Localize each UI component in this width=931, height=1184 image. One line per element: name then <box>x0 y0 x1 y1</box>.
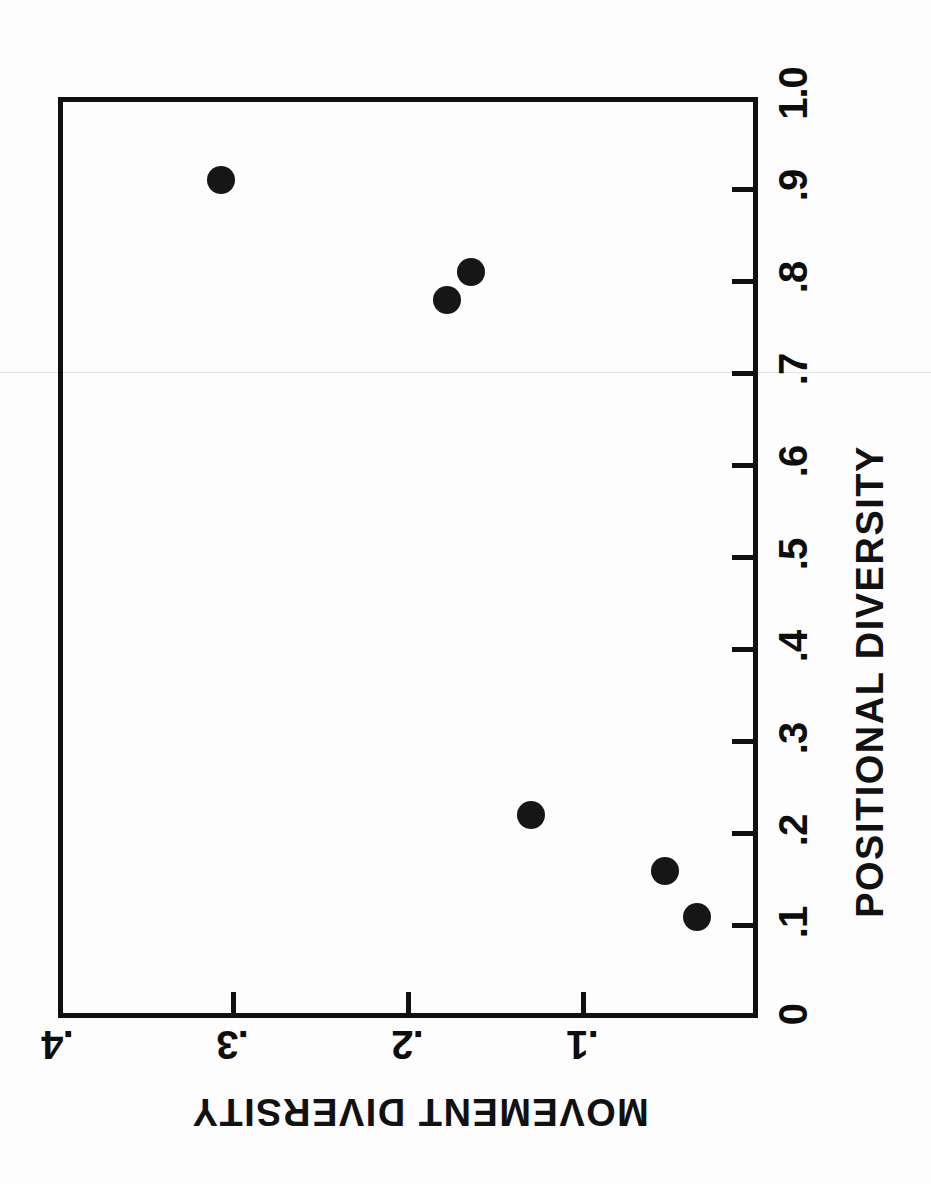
x-axis-tick <box>732 279 758 284</box>
data-point <box>683 903 711 931</box>
x-axis-tick-label: .1 <box>771 895 816 949</box>
y-axis-title: MOVEMENT DIVERSITY <box>160 1090 680 1133</box>
x-axis-tick-label: .6 <box>771 435 816 489</box>
data-point <box>517 801 545 829</box>
y-axis-tick <box>231 992 236 1018</box>
x-axis-tick <box>732 371 758 376</box>
x-axis-tick-label: .8 <box>771 251 816 305</box>
y-axis-tick-label: .4 <box>23 1022 93 1067</box>
data-point <box>207 166 235 194</box>
x-axis-tick-label: .3 <box>771 711 816 765</box>
scatter-plot-figure: POSITIONAL DIVERSITY MOVEMENT DIVERSITY … <box>0 0 931 1184</box>
x-axis-tick-label: 0 <box>771 988 816 1042</box>
x-axis-tick <box>732 831 758 836</box>
x-axis-title: POSITIONAL DIVERSITY <box>849 372 892 992</box>
x-axis-tick <box>732 463 758 468</box>
data-point <box>457 258 485 286</box>
y-axis-tick-label: .1 <box>548 1022 618 1067</box>
y-axis-tick <box>406 992 411 1018</box>
x-axis-tick <box>732 555 758 560</box>
y-axis-tick-label: .3 <box>198 1022 268 1067</box>
x-axis-tick <box>732 923 758 928</box>
data-point <box>651 857 679 885</box>
x-axis-tick-label: 1.0 <box>771 67 816 121</box>
plot-area <box>58 97 758 1018</box>
y-axis-tick-label: .2 <box>373 1022 443 1067</box>
x-axis-tick <box>732 187 758 192</box>
x-axis-tick-label: .5 <box>771 527 816 581</box>
x-axis-tick <box>732 739 758 744</box>
x-axis-tick-label: .4 <box>771 619 816 673</box>
y-axis-tick <box>581 992 586 1018</box>
x-axis-tick <box>732 647 758 652</box>
x-axis-tick-label: .9 <box>771 159 816 213</box>
data-point <box>433 286 461 314</box>
x-axis-tick-label: .7 <box>771 343 816 397</box>
x-axis-tick-label: .2 <box>771 803 816 857</box>
